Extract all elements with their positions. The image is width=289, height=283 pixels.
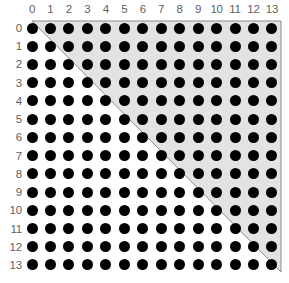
matrix-dot (156, 168, 167, 179)
matrix-dot (156, 114, 167, 125)
matrix-dot (63, 41, 74, 52)
matrix-dot (45, 59, 56, 70)
matrix-dot (27, 23, 38, 34)
matrix-dot (211, 150, 222, 161)
matrix-dot (211, 23, 222, 34)
matrix-dot (266, 150, 277, 161)
matrix-dot (45, 223, 56, 234)
matrix-dot (193, 132, 204, 143)
matrix-dot (266, 205, 277, 216)
matrix-dot (156, 41, 167, 52)
matrix-dot (174, 77, 185, 88)
matrix-dot (174, 187, 185, 198)
matrix-dot (248, 168, 259, 179)
matrix-dot (230, 241, 241, 252)
matrix-dot (100, 114, 111, 125)
matrix-dot (63, 168, 74, 179)
matrix-dot (27, 187, 38, 198)
matrix-dot (82, 41, 93, 52)
matrix-dot (211, 132, 222, 143)
matrix-dot (119, 77, 130, 88)
matrix-dot (193, 23, 204, 34)
matrix-dot (27, 205, 38, 216)
matrix-dot (119, 59, 130, 70)
matrix-dot (82, 223, 93, 234)
matrix-dot (45, 187, 56, 198)
matrix-dot (27, 41, 38, 52)
matrix-dot (174, 114, 185, 125)
matrix-dot (100, 77, 111, 88)
matrix-dot (63, 205, 74, 216)
matrix-dot (45, 77, 56, 88)
matrix-dot (174, 168, 185, 179)
matrix-dot (248, 114, 259, 125)
matrix-dot (266, 241, 277, 252)
matrix-dot (248, 187, 259, 198)
matrix-dot (211, 41, 222, 52)
matrix-dot (193, 114, 204, 125)
matrix-dot (27, 259, 38, 270)
matrix-dot (82, 77, 93, 88)
matrix-dot (100, 187, 111, 198)
matrix-dot (211, 114, 222, 125)
matrix-dot (63, 59, 74, 70)
matrix-dot (248, 95, 259, 106)
matrix-dot (137, 168, 148, 179)
matrix-dot (82, 59, 93, 70)
matrix-dot (156, 132, 167, 143)
matrix-dot (119, 241, 130, 252)
matrix-dot (100, 132, 111, 143)
matrix-dot (45, 150, 56, 161)
matrix-dot (266, 41, 277, 52)
matrix-dot (174, 41, 185, 52)
matrix-dot (82, 95, 93, 106)
matrix-dot (174, 259, 185, 270)
matrix-dot (156, 223, 167, 234)
matrix-dot (230, 168, 241, 179)
matrix-dot (266, 95, 277, 106)
matrix-dot (100, 23, 111, 34)
matrix-dot (45, 168, 56, 179)
matrix-dot (137, 187, 148, 198)
matrix-dot (266, 77, 277, 88)
matrix-dot (137, 59, 148, 70)
matrix-dot (174, 223, 185, 234)
matrix-dot (63, 223, 74, 234)
matrix-dot (119, 150, 130, 161)
matrix-dot (193, 59, 204, 70)
matrix-dot (211, 241, 222, 252)
matrix-dot (45, 259, 56, 270)
matrix-dot (211, 168, 222, 179)
matrix-dot (63, 132, 74, 143)
matrix-dot (82, 132, 93, 143)
matrix-dot (193, 168, 204, 179)
matrix-dot (266, 132, 277, 143)
matrix-dot (248, 59, 259, 70)
matrix-dot (230, 41, 241, 52)
matrix-dot (230, 132, 241, 143)
matrix-dot (100, 59, 111, 70)
matrix-dot (230, 23, 241, 34)
matrix-dot (266, 187, 277, 198)
matrix-dot (174, 205, 185, 216)
dot-matrix-figure: 012345678910111213 012345678910111213 (0, 0, 289, 283)
matrix-dot (100, 259, 111, 270)
matrix-dot (27, 77, 38, 88)
matrix-dot (156, 59, 167, 70)
matrix-dot (248, 132, 259, 143)
matrix-dot (63, 150, 74, 161)
matrix-dot (137, 150, 148, 161)
matrix-dot (230, 259, 241, 270)
matrix-dot (266, 168, 277, 179)
matrix-dot (211, 187, 222, 198)
matrix-dot (119, 223, 130, 234)
matrix-dot (82, 205, 93, 216)
matrix-dot (193, 223, 204, 234)
matrix-dot (174, 241, 185, 252)
matrix-dot (156, 241, 167, 252)
matrix-dot (193, 187, 204, 198)
matrix-dot (174, 150, 185, 161)
matrix-dot (193, 77, 204, 88)
matrix-dot (174, 95, 185, 106)
matrix-dot (137, 23, 148, 34)
